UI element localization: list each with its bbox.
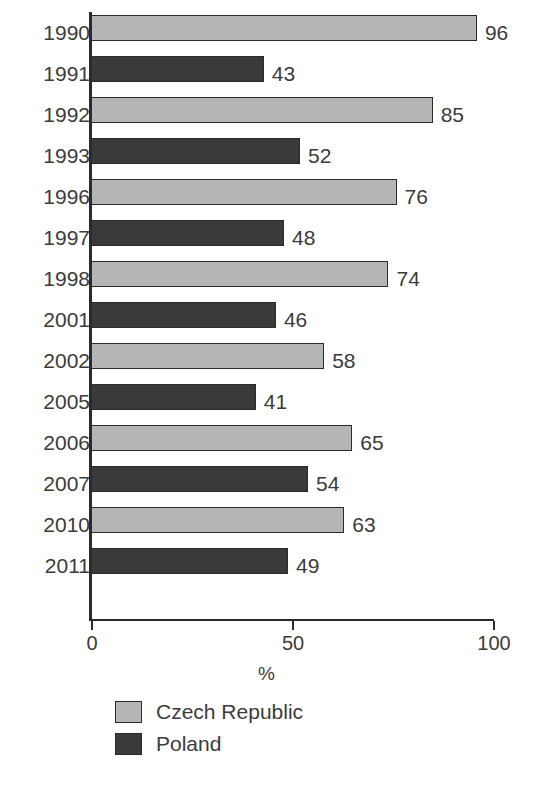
category-label: 2002 xyxy=(43,349,90,373)
bar-row: 199676 xyxy=(0,176,533,217)
bar xyxy=(91,56,264,82)
legend-swatch xyxy=(115,733,142,755)
category-label: 1990 xyxy=(43,21,90,45)
bar xyxy=(91,97,433,123)
legend-label: Poland xyxy=(156,732,221,756)
category-label: 1996 xyxy=(43,185,90,209)
axis-tick-label: 50 xyxy=(282,632,304,655)
bar-value-label: 85 xyxy=(441,103,464,127)
legend-swatch xyxy=(115,701,142,723)
axis-tick xyxy=(292,621,294,630)
bar-value-label: 58 xyxy=(332,349,355,373)
category-label: 2007 xyxy=(43,472,90,496)
bar-value-label: 48 xyxy=(292,226,315,250)
bar xyxy=(91,548,288,574)
bar xyxy=(91,261,388,287)
bar-value-label: 54 xyxy=(316,472,339,496)
axis-tick-label: 0 xyxy=(86,632,97,655)
plot-area: 1990961991431992851993521996761997481998… xyxy=(0,0,533,640)
bar-value-label: 52 xyxy=(308,144,331,168)
bar-row: 199352 xyxy=(0,135,533,176)
bar-row: 200258 xyxy=(0,340,533,381)
category-label: 1992 xyxy=(43,103,90,127)
bar xyxy=(91,384,256,410)
bar xyxy=(91,507,344,533)
bar xyxy=(91,302,276,328)
bar-row: 199143 xyxy=(0,53,533,94)
bar xyxy=(91,425,352,451)
axis-tick xyxy=(493,621,495,630)
legend-item: Poland xyxy=(115,729,303,758)
bar xyxy=(91,220,284,246)
bar xyxy=(91,466,308,492)
bar-row: 201149 xyxy=(0,545,533,586)
category-label: 2005 xyxy=(43,390,90,414)
bar-row: 199096 xyxy=(0,12,533,53)
bar-value-label: 96 xyxy=(485,21,508,45)
bar-row: 200146 xyxy=(0,299,533,340)
bar xyxy=(91,343,324,369)
bar-row: 199285 xyxy=(0,94,533,135)
category-label: 2010 xyxy=(43,513,90,537)
chart-legend: Czech RepublicPoland xyxy=(115,697,303,761)
bar-value-label: 43 xyxy=(272,62,295,86)
category-label: 1993 xyxy=(43,144,90,168)
bar-row: 201063 xyxy=(0,504,533,545)
bar-value-label: 46 xyxy=(284,308,307,332)
category-label: 2011 xyxy=(45,554,90,578)
bar-value-label: 63 xyxy=(352,513,375,537)
bar-row: 199874 xyxy=(0,258,533,299)
bar-row: 200754 xyxy=(0,463,533,504)
bar-value-label: 65 xyxy=(360,431,383,455)
bar xyxy=(91,15,477,41)
category-label: 2006 xyxy=(43,431,90,455)
axis-tick xyxy=(91,621,93,630)
bar xyxy=(91,138,300,164)
axis-tick-label: 100 xyxy=(477,632,510,655)
legend-item: Czech Republic xyxy=(115,697,303,726)
category-label: 2001 xyxy=(43,308,90,332)
bar-row: 200541 xyxy=(0,381,533,422)
category-label: 1991 xyxy=(43,62,90,86)
bar-chart: 1990961991431992851993521996761997481998… xyxy=(0,0,533,790)
bar xyxy=(91,179,397,205)
category-label: 1998 xyxy=(43,267,90,291)
bar-row: 200665 xyxy=(0,422,533,463)
category-label: 1997 xyxy=(43,226,90,250)
bar-value-label: 74 xyxy=(396,267,419,291)
bar-value-label: 76 xyxy=(405,185,428,209)
x-axis-title: % xyxy=(0,663,533,685)
bar-value-label: 41 xyxy=(264,390,287,414)
bar-value-label: 49 xyxy=(296,554,319,578)
bar-row: 199748 xyxy=(0,217,533,258)
legend-label: Czech Republic xyxy=(156,700,303,724)
